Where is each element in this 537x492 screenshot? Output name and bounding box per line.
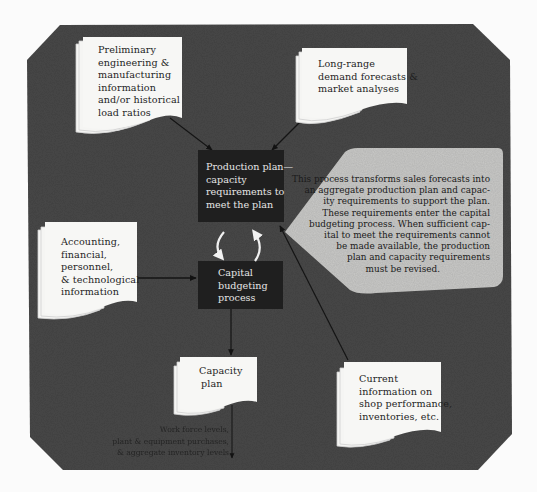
text-line: information [98,82,180,95]
text-line: These requirements enter the capital [292,208,490,219]
process-production-plan-text: Production plan— capacity requirements t… [206,161,293,211]
callout-text: This process transforms sales forecasts … [292,174,490,275]
text-line: This process transforms sales forecasts … [292,174,490,185]
text-line: capacity [206,174,293,187]
document-shop-info-text: Current information on shop performance,… [359,373,452,423]
text-line: demand forecasts & [318,71,418,84]
text-line: requirements to [206,186,293,199]
text-line: shop performance, [359,398,452,411]
text-line: inventories, etc. [359,411,452,424]
text-line: ity requirements to support the plan. [292,196,490,207]
text-line: Preliminary [98,44,180,57]
text-line: budgeting [218,280,268,293]
process-capital-budgeting-text: Capital budgeting process [218,267,268,305]
text-line: and/or historical [98,94,180,107]
text-line: Production plan— [206,161,293,174]
text-line: Work force levels, [112,424,229,436]
text-line: must be revised. [292,264,490,275]
text-line: ital to meet the requirements cannot [292,230,490,241]
text-line: manufacturing [98,69,180,82]
document-engineering-text: Preliminary engineering & manufacturing … [98,44,180,119]
text-line: Capacity [199,365,242,378]
diagram-canvas: Preliminary engineering & manufacturing … [0,0,537,492]
text-line: be made available, the production [292,241,490,252]
document-forecasts-text: Long-range demand forecasts & market ana… [318,58,418,96]
text-line: engineering & [98,57,180,70]
text-line: information [61,286,139,299]
document-accounting-text: Accounting, financial, personnel, & tech… [61,236,139,299]
document-capacity-plan-text: Capacity plan [199,365,242,390]
text-line: information on [359,386,452,399]
text-line: market analyses [318,83,418,96]
results-text: Work force levels, plant & equipment pur… [112,424,229,459]
text-line: budgeting process. When sufficient cap- [292,219,490,230]
text-line: & technological [61,274,139,287]
text-line: plan and capacity requirements [292,252,490,263]
text-line: Current [359,373,452,386]
text-line: personnel, [61,261,139,274]
text-line: Long-range [318,58,418,71]
text-line: process [218,292,268,305]
text-line: load ratios [98,107,180,120]
text-line: & aggregate inventory levels [112,447,229,459]
text-line: financial, [61,249,139,262]
text-line: an aggregate production plan and capac- [292,185,490,196]
text-line: Accounting, [61,236,139,249]
text-line: meet the plan [206,199,293,212]
text-line: Capital [218,267,268,280]
text-line: plant & equipment purchases, [112,436,229,448]
text-line: plan [199,378,242,391]
